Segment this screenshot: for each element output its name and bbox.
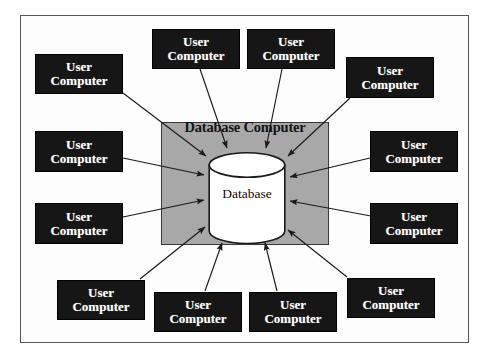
- node-label-line2: Computer: [264, 312, 321, 326]
- node-label-line1: User: [66, 138, 92, 152]
- node-bottom-right-outer[interactable]: User Computer: [347, 278, 435, 318]
- node-label-line2: Computer: [50, 152, 107, 166]
- node-label-line2: Computer: [72, 300, 129, 314]
- node-label-line1: User: [183, 35, 209, 49]
- database-computer-label: Database Computer: [161, 119, 329, 136]
- diagram-canvas: Database Database Computer User Computer…: [0, 0, 487, 361]
- node-label-line2: Computer: [50, 224, 107, 238]
- node-label-line1: User: [278, 35, 304, 49]
- node-right-lower[interactable]: User Computer: [370, 203, 458, 244]
- node-bottom-center-left[interactable]: User Computer: [154, 292, 242, 332]
- node-top-center-right[interactable]: User Computer: [247, 29, 335, 69]
- node-label-line1: User: [280, 298, 306, 312]
- node-label-line2: Computer: [361, 78, 418, 92]
- node-label-line1: User: [378, 284, 404, 298]
- node-right-upper[interactable]: User Computer: [370, 131, 458, 172]
- node-label-line1: User: [377, 64, 403, 78]
- node-left-lower[interactable]: User Computer: [35, 203, 123, 244]
- node-label-line2: Computer: [362, 298, 419, 312]
- node-top-center-left[interactable]: User Computer: [152, 29, 240, 69]
- node-label-line1: User: [401, 138, 427, 152]
- node-left-upper[interactable]: User Computer: [35, 131, 123, 172]
- node-label-line2: Computer: [169, 312, 226, 326]
- node-label-line2: Computer: [50, 74, 107, 88]
- node-label-line1: User: [401, 210, 427, 224]
- node-top-left-outer[interactable]: User Computer: [35, 54, 123, 94]
- node-label-line2: Computer: [385, 224, 442, 238]
- node-label-line1: User: [66, 60, 92, 74]
- node-label-line1: User: [66, 210, 92, 224]
- node-label-line2: Computer: [262, 49, 319, 63]
- database-label: Database: [208, 186, 286, 202]
- node-label-line2: Computer: [385, 152, 442, 166]
- node-top-right-outer[interactable]: User Computer: [346, 57, 434, 98]
- node-label-line1: User: [88, 286, 114, 300]
- node-bottom-left-outer[interactable]: User Computer: [57, 280, 145, 320]
- node-label-line2: Computer: [167, 49, 224, 63]
- node-label-line1: User: [185, 298, 211, 312]
- node-bottom-center-right[interactable]: User Computer: [249, 292, 337, 332]
